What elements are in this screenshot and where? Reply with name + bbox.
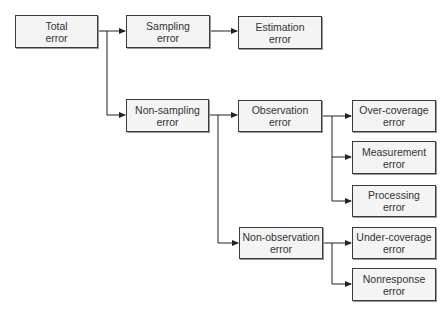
node-label-line2: error — [270, 243, 292, 255]
node-label-line1: Over-coverage — [359, 104, 428, 116]
node-label-line2: error — [269, 33, 291, 45]
node-non-sampling-error: Non-sampling error — [126, 99, 209, 132]
node-label-line2: error — [383, 201, 405, 213]
node-label-line2: error — [383, 116, 405, 128]
node-label-line1: Observation — [252, 104, 309, 116]
edge-observation-processing — [332, 157, 351, 201]
node-label-line1: Non-sampling — [135, 104, 200, 116]
edge-nonsampling-nonobservation — [218, 115, 238, 243]
node-sampling-error: Sampling error — [126, 15, 210, 48]
node-label-line2: error — [383, 158, 405, 170]
node-nonresponse-error: Nonresponse error — [352, 268, 436, 301]
edge-total-nonsampling — [107, 31, 125, 115]
node-label-line2: error — [45, 32, 67, 44]
node-total-error: Total error — [15, 15, 98, 48]
node-label-line1: Estimation — [255, 21, 304, 33]
node-observation-error: Observation error — [238, 100, 322, 132]
node-label-line1: Total — [45, 20, 67, 32]
node-label-line2: error — [383, 243, 405, 255]
edge-nonobservation-nonresponse — [332, 243, 351, 284]
node-label-line1: Nonresponse — [363, 273, 425, 285]
node-label-line1: Under-coverage — [356, 231, 431, 243]
node-over-coverage-error: Over-coverage error — [352, 100, 436, 132]
node-under-coverage-error: Under-coverage error — [352, 227, 436, 259]
node-label-line1: Sampling — [146, 20, 190, 32]
node-label-line2: error — [383, 285, 405, 297]
node-label-line2: error — [157, 32, 179, 44]
edge-observation-measurement — [332, 116, 351, 157]
node-estimation-error: Estimation error — [238, 16, 322, 49]
error-taxonomy-diagram: Total error Sampling error Estimation er… — [0, 0, 447, 316]
node-label-line1: Processing — [368, 189, 420, 201]
node-processing-error: Processing error — [352, 185, 436, 217]
node-label-line1: Measurement — [362, 146, 426, 158]
node-non-observation-error: Non-observation error — [239, 227, 323, 259]
node-label-line2: error — [156, 116, 178, 128]
node-label-line2: error — [269, 116, 291, 128]
node-measurement-error: Measurement error — [352, 141, 436, 174]
node-label-line1: Non-observation — [242, 231, 319, 243]
